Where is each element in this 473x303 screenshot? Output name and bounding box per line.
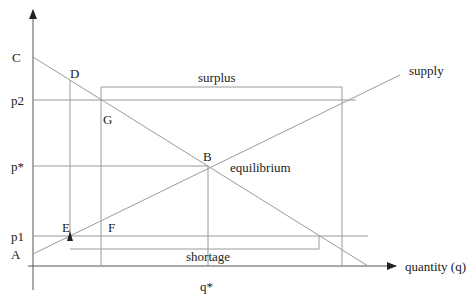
label-shortage: shortage [186, 249, 230, 264]
label-c: C [12, 50, 21, 65]
demand-curve [33, 57, 368, 266]
label-p-star: p* [11, 159, 24, 174]
point-f: F [108, 220, 115, 235]
label-supply: supply [409, 63, 444, 78]
label-p1: p1 [11, 229, 24, 244]
label-a: A [11, 247, 21, 262]
supply-curve [33, 75, 400, 254]
surplus-bracket [101, 87, 342, 266]
label-q-star: q* [200, 279, 213, 294]
supply-demand-diagram: C p2 p* p1 A D G B E F surplus equilibri… [0, 0, 473, 303]
point-g: G [103, 112, 112, 127]
point-b: B [203, 149, 212, 164]
x-axis-label: quantity (q) [405, 259, 466, 274]
point-e: E [62, 220, 70, 235]
label-surplus: surplus [198, 70, 236, 85]
point-d: D [70, 66, 79, 81]
shortage-bracket [70, 236, 319, 249]
label-p2: p2 [11, 93, 24, 108]
label-equilibrium: equilibrium [230, 160, 291, 175]
